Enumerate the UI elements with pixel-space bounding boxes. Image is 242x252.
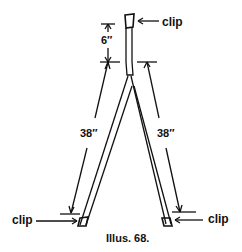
- clip-label-left: clip: [12, 214, 33, 226]
- clip-label-right: clip: [208, 213, 229, 225]
- dimension-label-right-38in: 38″: [157, 128, 175, 139]
- top-clip-shape: [125, 14, 134, 28]
- right-leg: [131, 76, 172, 226]
- upper-leg: [126, 27, 133, 75]
- dimension-label-6in: 6″: [101, 35, 112, 46]
- dimension-label-left-38in: 38″: [80, 128, 98, 139]
- tripod-diagram: [0, 0, 242, 252]
- clip-label-top: clip: [162, 16, 183, 28]
- clip-arrows: [36, 18, 203, 224]
- figure-caption: Illus. 68.: [106, 233, 149, 244]
